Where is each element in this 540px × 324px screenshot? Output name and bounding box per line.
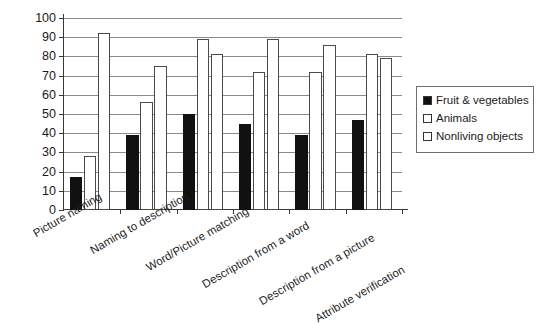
y-tick-label: 20 [22,165,56,179]
plot-area: 0102030405060708090100 [64,18,402,210]
legend-item: Animals [423,110,527,127]
y-tick-label: 100 [22,11,56,25]
y-tick-label: 10 [22,184,56,198]
legend-item-label: Fruit & vegetables [436,95,529,107]
x-axis-labels: Picture namingNaming to descriptionWord/… [0,212,420,317]
y-tick-label: 50 [22,107,56,121]
y-tick-label: 40 [22,126,56,140]
legend-item-label: Nonliving objects [436,131,523,143]
legend-item-label: Animals [436,113,477,125]
bar-group [64,18,402,210]
plot-frame: 0102030405060708090100 [64,18,402,210]
y-tick-label: 30 [22,145,56,159]
bar [352,120,365,210]
x-tick-label: Attribute verification [313,263,406,324]
bar [380,58,393,210]
bar [366,54,379,210]
legend-item: Nonliving objects [423,128,527,145]
y-tick-label: 90 [22,30,56,44]
legend-swatch-icon [423,96,432,105]
legend-swatch-icon [423,132,432,141]
y-tick-label: 70 [22,69,56,83]
y-tick-label: 60 [22,88,56,102]
legend-item: Fruit & vegetables [423,92,527,109]
y-tick-label: 80 [22,49,56,63]
chart-legend: Fruit & vegetables Animals Nonliving obj… [416,86,534,153]
legend-swatch-icon [423,114,432,123]
